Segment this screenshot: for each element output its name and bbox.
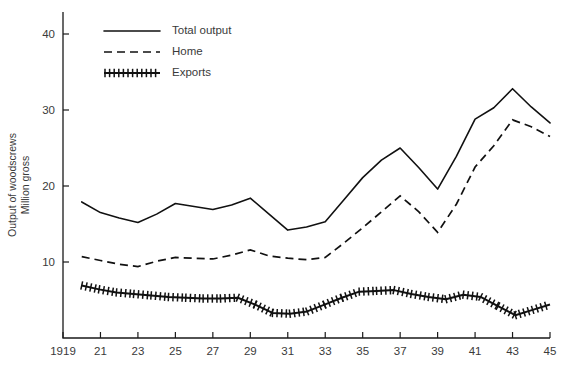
chart-svg: 10203040 191921232527293133353739414345 … xyxy=(0,0,566,374)
exports-hatch-mark xyxy=(103,286,104,294)
x-tick-label: 39 xyxy=(431,345,444,357)
series-dashed xyxy=(82,120,550,267)
x-tick-label: 41 xyxy=(469,345,482,357)
exports-hatch-mark xyxy=(424,292,425,300)
x-tick-label: 23 xyxy=(132,345,145,357)
y-tick-label: 30 xyxy=(42,104,55,116)
exports-hatch-mark xyxy=(476,292,477,300)
exports-hatch-mark xyxy=(454,293,456,301)
exports-hatch-mark xyxy=(428,293,429,301)
x-tick-label: 35 xyxy=(356,345,369,357)
exports-hatch-mark xyxy=(411,290,412,298)
exports-hatch-mark xyxy=(151,291,152,299)
x-tick-label: 29 xyxy=(244,345,257,357)
y-tick-label: 10 xyxy=(42,256,55,268)
y-axis-title-line2: Million gross xyxy=(19,156,31,214)
exports-hatch-mark xyxy=(437,294,438,302)
total-output-line xyxy=(82,89,550,230)
exports-hatch-mark xyxy=(143,291,144,299)
exports-hatch-mark xyxy=(472,292,473,300)
y-tick-label: 20 xyxy=(42,180,55,192)
exports-line xyxy=(82,286,550,316)
x-tick-label: 21 xyxy=(94,345,107,357)
y-tick-labels: 10203040 xyxy=(42,28,55,268)
x-tick-labels: 191921232527293133353739414345 xyxy=(50,345,556,357)
legend-item-solid: Total output xyxy=(104,24,232,36)
exports-hatch-mark xyxy=(398,287,400,295)
exports-hatch-mark xyxy=(303,308,304,316)
exports-hatch-mark xyxy=(121,289,122,297)
x-tick-label: 33 xyxy=(319,345,332,357)
exports-hatch-mark xyxy=(107,287,108,295)
exports-hatch-mark xyxy=(420,291,421,299)
x-tick-marks xyxy=(63,332,550,338)
y-axis-title: Output of woodscrews Million gross xyxy=(6,133,31,237)
exports-hatch-mark xyxy=(81,281,83,289)
axes-group xyxy=(63,12,550,338)
chart-figure: 10203040 191921232527293133353739414345 … xyxy=(0,0,566,374)
exports-hatch-mark xyxy=(433,293,434,301)
exports-hatch-mark xyxy=(467,291,468,299)
data-series-group xyxy=(81,89,550,320)
exports-hatch-mark xyxy=(415,291,416,299)
x-tick-label: 31 xyxy=(281,345,294,357)
exports-hatch-mark xyxy=(463,291,464,299)
series-solid xyxy=(82,89,550,230)
exports-hatch-mark xyxy=(90,283,92,291)
exports-hatch-mark xyxy=(298,308,299,316)
y-axis-title-line1: Output of woodscrews xyxy=(6,133,18,237)
exports-hatch-mark xyxy=(112,288,113,296)
exports-hatch-mark xyxy=(294,309,295,317)
exports-hatch-mark xyxy=(164,292,165,300)
legend-label: Home xyxy=(172,45,203,57)
legend-item-hatched: Exports xyxy=(104,66,211,78)
exports-hatch-mark xyxy=(138,290,139,298)
exports-hatch-mark xyxy=(445,295,447,303)
legend-item-dashed: Home xyxy=(104,45,203,57)
exports-hatch-mark xyxy=(289,310,290,318)
chart-legend: Total outputHomeExports xyxy=(104,24,232,78)
x-tick-label: 1919 xyxy=(50,345,76,357)
x-tick-label: 37 xyxy=(394,345,407,357)
exports-hatch-mark xyxy=(133,290,134,298)
y-tick-marks xyxy=(63,34,69,262)
exports-hatch-mark xyxy=(393,286,395,294)
exports-hatch-mark xyxy=(98,285,99,293)
x-tick-label: 45 xyxy=(544,345,557,357)
exports-hatch-mark xyxy=(402,288,404,296)
y-tick-label: 40 xyxy=(42,28,55,40)
home-line xyxy=(82,120,550,267)
legend-label: Exports xyxy=(172,66,211,78)
exports-hatch-mark xyxy=(442,295,443,303)
exports-hatch-mark xyxy=(85,282,87,290)
exports-hatch-mark xyxy=(458,292,460,300)
series-hatched xyxy=(81,281,550,319)
exports-hatch-mark xyxy=(116,288,117,296)
exports-hatch-mark xyxy=(94,284,96,292)
exports-hatch-mark xyxy=(160,292,161,300)
exports-hatch-mark xyxy=(449,294,451,302)
legend-label: Total output xyxy=(172,24,232,36)
x-tick-label: 27 xyxy=(206,345,219,357)
exports-hatch-mark xyxy=(155,292,156,300)
exports-hatch-mark xyxy=(147,291,148,299)
exports-hatch-mark xyxy=(125,289,126,297)
axis-lines xyxy=(63,12,550,338)
x-tick-label: 25 xyxy=(169,345,182,357)
x-tick-label: 43 xyxy=(506,345,519,357)
exports-hatch-mark xyxy=(406,289,408,297)
exports-hatch-mark xyxy=(130,289,131,297)
